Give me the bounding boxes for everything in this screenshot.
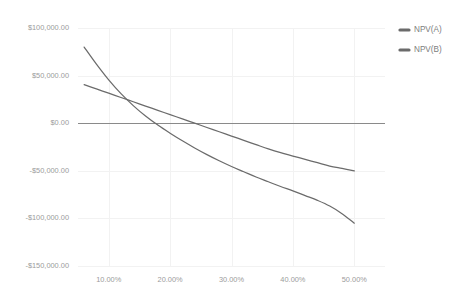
horizontal-gridlines bbox=[78, 29, 385, 267]
series-lines bbox=[84, 47, 354, 223]
npv-line-chart: $100,000.00$50,000.00$0.00-$50,000.00-$1… bbox=[0, 0, 471, 298]
y-axis-label: -$50,000.00 bbox=[30, 166, 69, 175]
x-axis-label: 20.00% bbox=[158, 275, 183, 284]
y-axis-label: $100,000.00 bbox=[28, 23, 69, 32]
chart-legend: NPV(A)NPV(B) bbox=[400, 25, 442, 54]
x-axis-label: 10.00% bbox=[96, 275, 121, 284]
y-axis-tick-labels: $100,000.00$50,000.00$0.00-$50,000.00-$1… bbox=[25, 23, 69, 270]
legend-label-npvb[interactable]: NPV(B) bbox=[414, 45, 442, 54]
x-axis-tick-labels: 10.00%20.00%30.00%40.00%50.00% bbox=[96, 275, 367, 284]
x-axis-label: 50.00% bbox=[342, 275, 367, 284]
series-line-npva bbox=[84, 47, 354, 223]
vertical-gridlines bbox=[110, 28, 355, 266]
y-axis-label: $50,000.00 bbox=[32, 71, 69, 80]
chart-container: $100,000.00$50,000.00$0.00-$50,000.00-$1… bbox=[0, 0, 471, 298]
y-axis-label: -$100,000.00 bbox=[25, 213, 69, 222]
x-axis-label: 30.00% bbox=[219, 275, 244, 284]
y-axis-label: $0.00 bbox=[51, 118, 70, 127]
y-axis-label: -$150,000.00 bbox=[25, 261, 69, 270]
x-axis-label: 40.00% bbox=[280, 275, 305, 284]
legend-label-npva[interactable]: NPV(A) bbox=[414, 25, 442, 34]
